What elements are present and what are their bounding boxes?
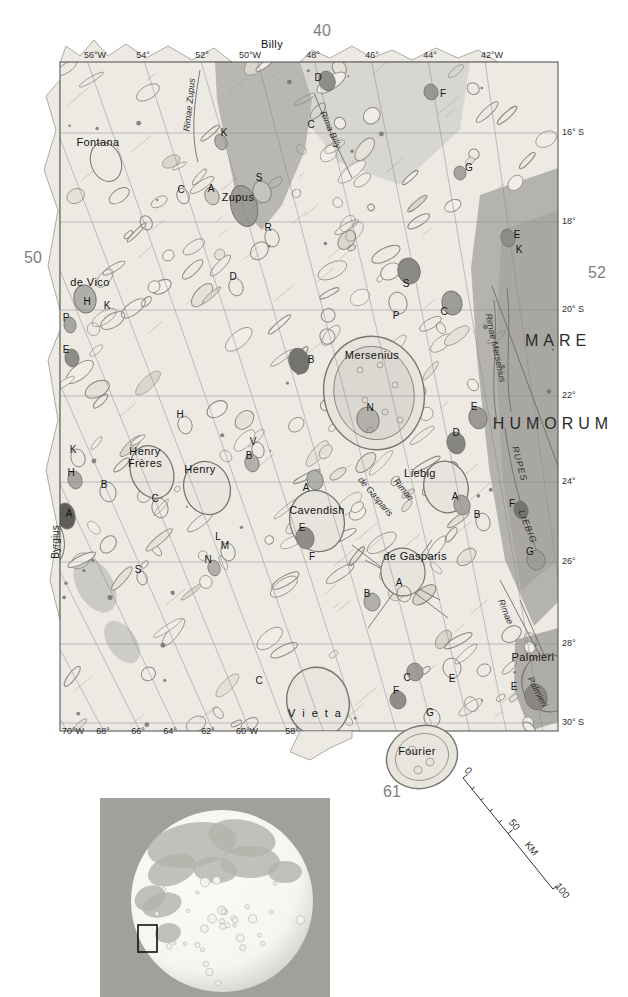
scale-bar bbox=[463, 774, 558, 889]
moon-crater-dot bbox=[236, 934, 244, 942]
moon-crater-dot bbox=[183, 942, 186, 945]
moon-crater-dot bbox=[173, 942, 176, 945]
moon-mare-patch bbox=[268, 861, 302, 883]
small-dark-crater bbox=[513, 671, 516, 674]
small-dark-crater bbox=[489, 488, 493, 492]
moon-crater-dot bbox=[162, 887, 165, 890]
moon-crater-dot bbox=[248, 915, 256, 923]
small-dark-crater bbox=[552, 349, 554, 351]
small-dark-crater bbox=[62, 596, 66, 600]
small-dark-crater bbox=[91, 559, 94, 562]
scale-tick bbox=[490, 809, 493, 811]
small-dark-crater bbox=[287, 80, 292, 85]
atlas-page: { "palette": { "paper": "#ffffff", "map_… bbox=[0, 0, 628, 997]
moon-crater-dot bbox=[206, 968, 214, 976]
small-dark-crater bbox=[547, 389, 552, 394]
moon-crater-dot bbox=[296, 916, 304, 924]
moon-crater-dot bbox=[258, 933, 262, 937]
moon-crater-dot bbox=[233, 918, 239, 924]
moon-crater-dot bbox=[233, 924, 236, 927]
small-dark-crater bbox=[108, 595, 113, 600]
moon-crater-dot bbox=[203, 961, 208, 966]
moon-crater-dot bbox=[261, 941, 265, 945]
moon-crater-dot bbox=[269, 910, 273, 914]
terrain-spill-top bbox=[300, 46, 498, 62]
small-dark-crater bbox=[76, 712, 80, 716]
lunar-chart-graphic bbox=[0, 0, 628, 997]
small-dark-crater bbox=[477, 494, 481, 498]
moon-crater-dot bbox=[155, 912, 159, 916]
moon-crater-dot bbox=[201, 925, 209, 933]
small-dark-crater bbox=[163, 679, 166, 682]
small-dark-crater bbox=[286, 381, 289, 384]
moon-crater-dot bbox=[213, 876, 221, 884]
small-dark-crater bbox=[82, 569, 85, 572]
small-dark-crater bbox=[68, 124, 71, 127]
scale-tick bbox=[553, 885, 558, 889]
small-dark-crater bbox=[480, 87, 483, 90]
scale-tick bbox=[472, 787, 475, 789]
terrain-spill-left bbox=[46, 330, 60, 620]
small-dark-crater bbox=[379, 132, 384, 137]
small-dark-crater bbox=[240, 526, 243, 529]
terrain-spill-left bbox=[44, 80, 60, 310]
moon-crater-dot bbox=[245, 905, 249, 909]
moon-crater-dot bbox=[186, 909, 189, 912]
small-dark-crater bbox=[170, 591, 174, 595]
scale-tick bbox=[463, 774, 468, 778]
moon-crater-dot bbox=[240, 945, 246, 951]
moon-crater-dot bbox=[195, 943, 200, 948]
small-dark-crater bbox=[481, 699, 483, 701]
moon-crater-dot bbox=[200, 948, 204, 952]
small-dark-crater bbox=[501, 365, 505, 369]
small-dark-crater bbox=[483, 324, 488, 329]
small-dark-crater bbox=[350, 150, 354, 154]
small-dark-crater bbox=[220, 433, 224, 437]
moon-crater-dot bbox=[166, 943, 172, 949]
terrain-spill-bottom bbox=[290, 731, 352, 760]
moon-inset bbox=[100, 798, 330, 997]
small-dark-crater bbox=[160, 643, 165, 648]
small-dark-crater bbox=[307, 69, 310, 72]
small-dark-crater bbox=[347, 75, 349, 77]
scale-tick bbox=[481, 798, 484, 800]
small-dark-crater bbox=[136, 121, 141, 126]
map-area bbox=[32, 52, 583, 743]
small-dark-crater bbox=[156, 199, 159, 202]
small-dark-crater bbox=[95, 127, 99, 131]
moon-crater-dot bbox=[216, 981, 221, 986]
small-dark-crater bbox=[186, 506, 188, 508]
moon-crater-dot bbox=[220, 924, 226, 930]
terrain-spill-top bbox=[60, 40, 232, 63]
moon-crater-dot bbox=[219, 919, 224, 924]
moon-crater-dot bbox=[221, 909, 226, 914]
scale-tick bbox=[508, 830, 513, 834]
moon-crater-dot bbox=[196, 891, 199, 894]
small-dark-crater bbox=[324, 242, 328, 246]
scale-tick bbox=[499, 820, 502, 822]
moon-crater-dot bbox=[200, 877, 209, 886]
moon-crater-dot bbox=[274, 881, 278, 885]
moon-crater-dot bbox=[208, 914, 217, 923]
